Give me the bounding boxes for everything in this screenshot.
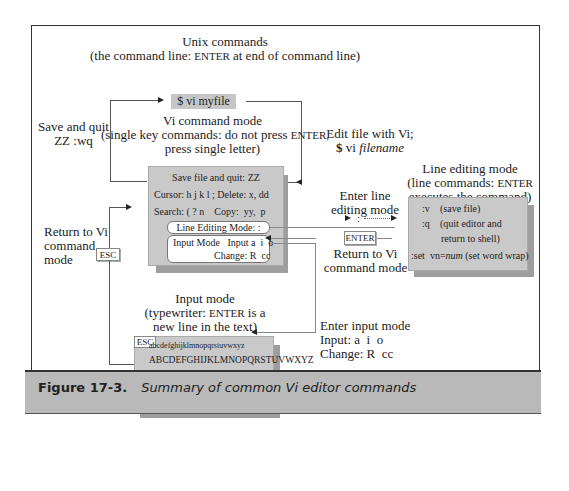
edit-file-command: $ vi filename: [320, 140, 420, 155]
connector-line: [109, 207, 110, 248]
line-cmd-quit-desc: (quit editor and: [440, 218, 502, 229]
return-vi-label-1: Return to Vi: [44, 224, 108, 239]
vi-command-mode-title: Vi command mode: [120, 113, 305, 128]
enter-line-editing-label-1: Enter line: [320, 188, 410, 203]
return-vi-label-2: command: [44, 238, 95, 253]
save-quit-keys: ZZ :wq: [36, 133, 111, 148]
edit-file-label: Edit file with Vi;: [320, 126, 420, 141]
enter-key: ENTER: [344, 231, 376, 245]
input-mode-title: Input mode: [150, 291, 260, 306]
arrow-right-icon: [345, 215, 351, 221]
line-cmd-save-desc: (save file): [440, 203, 480, 214]
esc-key-left: ESC: [96, 248, 120, 261]
colon-key: :: [357, 212, 360, 225]
figure-label: Figure 17-3.: [38, 380, 127, 395]
connector-line: [315, 243, 316, 333]
arrow-left-icon: [265, 235, 271, 241]
connector-line: [270, 227, 395, 228]
arrow-right-icon: [391, 215, 397, 221]
arrow-right-icon: [158, 97, 164, 103]
enter-input-mode-change: Change: R cc: [320, 346, 393, 361]
connector-line: [110, 181, 147, 182]
return-vi-label-right-2: command mode: [318, 260, 413, 275]
vi-start-command: $ vi myfile: [171, 94, 236, 109]
figure-caption-text: Summary of common Vi editor commands: [141, 380, 416, 395]
line-cmd-set: :set vn=num (set word wrap): [411, 250, 529, 261]
connector-line: [109, 261, 110, 365]
connector-line: [364, 218, 392, 219]
return-vi-label-3: mode: [44, 252, 73, 267]
change-mode-label: Change: R cc: [214, 250, 270, 261]
line-editing-mode-title: Line editing mode: [410, 161, 530, 176]
command-row-save: Save file and quit: ZZ: [148, 172, 284, 183]
vi-command-mode-subtitle-2: press single letter): [120, 141, 305, 156]
input-mode-subtitle-2: new line in the text): [130, 319, 280, 334]
line-editing-mode-entry: Line Editing Mode: :: [167, 221, 270, 234]
save-quit-label: Save and quit: [36, 119, 111, 134]
arrow-left-icon: [296, 179, 302, 185]
line-cmd-quit-desc-2: return to shell): [441, 233, 500, 244]
return-vi-label-right-1: Return to Vi: [318, 246, 413, 261]
line-cmd-save: :v: [422, 203, 430, 214]
connector-line: [270, 238, 316, 239]
connector-line: [270, 243, 315, 244]
enter-input-mode-label: Enter input mode: [320, 318, 410, 333]
unix-commands-title: Unix commands: [90, 34, 360, 49]
connector-line: [109, 207, 127, 208]
command-row-cursor: Cursor: h j k l ; Delete: x, dd: [154, 189, 269, 200]
input-row-lowercase: abcdefghijklmnopqrstuvwxyz: [149, 341, 245, 350]
connector-line: [246, 101, 301, 102]
figure-caption: Figure 17-3.Summary of common Vi editor …: [38, 380, 416, 395]
connector-line: [110, 100, 160, 101]
unix-commands-subtitle: (the command line: ENTER at end of comma…: [60, 48, 390, 64]
input-row-uppercase: ABCDEFGHIJKLMNOPQRSTUVWXYZ: [149, 355, 314, 365]
input-mode-label: Input Mode Input a i o: [173, 237, 273, 248]
line-cmd-quit: :q: [422, 218, 430, 229]
command-row-search: Search: ( ? n Copy: yy, p: [154, 206, 266, 217]
enter-input-mode-input: Input: a i o: [320, 332, 383, 347]
arrow-right-icon: [126, 204, 132, 210]
